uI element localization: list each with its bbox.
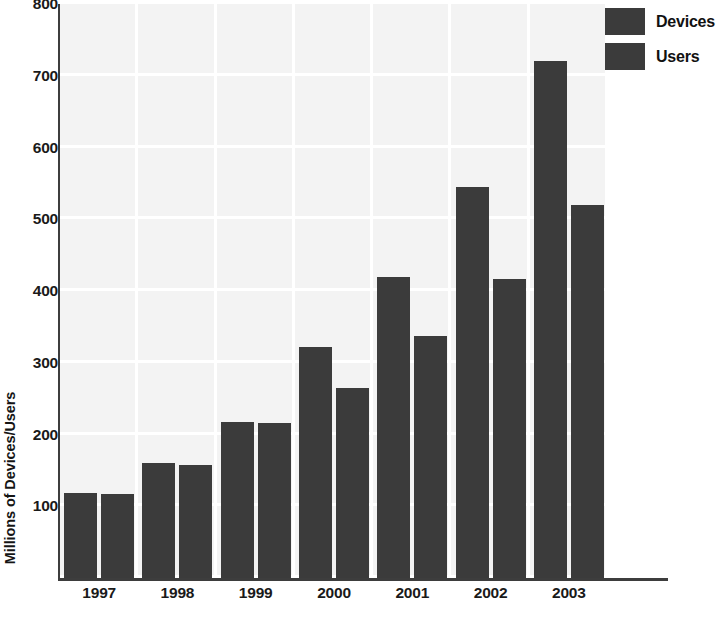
bar-users-1998 — [179, 465, 212, 578]
y-axis-tick-label: 400 — [22, 282, 58, 300]
bar-group — [142, 4, 212, 578]
x-axis-tick-label: 2003 — [552, 584, 586, 602]
legend-swatch-icon — [605, 8, 645, 35]
x-axis-tick-label: 2000 — [317, 584, 351, 602]
bar-group — [299, 4, 369, 578]
y-axis-tick-label: 100 — [22, 497, 58, 515]
bar-devices-1997 — [64, 493, 97, 578]
bar-users-1997 — [101, 494, 134, 578]
bar-users-2002 — [493, 279, 526, 578]
bar-users-2000 — [336, 388, 369, 578]
x-axis-tick-label: 2001 — [395, 584, 429, 602]
y-axis-tick-label: 500 — [22, 210, 58, 228]
x-axis-tick-label: 1997 — [82, 584, 116, 602]
legend-swatch-icon — [605, 43, 645, 70]
bar-devices-2002 — [456, 187, 489, 578]
plot-area — [60, 4, 608, 578]
y-axis-title: Millions of Devices/Users — [0, 0, 20, 578]
y-axis-title-text: Millions of Devices/Users — [2, 392, 18, 564]
x-axis-tick-label: 1998 — [161, 584, 195, 602]
bars-layer — [60, 4, 608, 578]
bar-group — [534, 4, 604, 578]
x-axis-tick-label: 1999 — [239, 584, 273, 602]
legend-entry-users[interactable]: Users — [605, 43, 715, 70]
y-axis-tick-label: 200 — [22, 426, 58, 444]
bar-users-2003 — [571, 205, 604, 578]
bar-chart: Millions of Devices/Users 10020030040050… — [0, 0, 723, 618]
bar-group — [377, 4, 447, 578]
bar-devices-1999 — [221, 422, 254, 578]
legend-label: Devices — [656, 13, 715, 31]
x-axis-line — [58, 578, 668, 581]
legend: DevicesUsers — [605, 8, 715, 70]
y-axis-tick-labels: 100200300400500600700800 — [22, 0, 58, 578]
y-axis-tick-label: 300 — [22, 354, 58, 372]
x-axis-tick-label: 2002 — [474, 584, 508, 602]
bar-group — [64, 4, 134, 578]
bar-devices-2003 — [534, 61, 567, 578]
bar-group — [221, 4, 291, 578]
bar-devices-2000 — [299, 347, 332, 578]
bar-users-1999 — [258, 423, 291, 578]
y-axis-tick-label: 700 — [22, 67, 58, 85]
x-axis-tick-labels: 1997199819992000200120022003 — [60, 584, 608, 614]
y-axis-tick-label: 600 — [22, 139, 58, 157]
y-axis-tick-label: 800 — [22, 0, 58, 13]
legend-label: Users — [656, 48, 699, 66]
bar-users-2001 — [414, 336, 447, 578]
bar-group — [456, 4, 526, 578]
bar-devices-2001 — [377, 277, 410, 578]
legend-entry-devices[interactable]: Devices — [605, 8, 715, 35]
bar-devices-1998 — [142, 463, 175, 578]
y-axis-line — [58, 4, 60, 580]
